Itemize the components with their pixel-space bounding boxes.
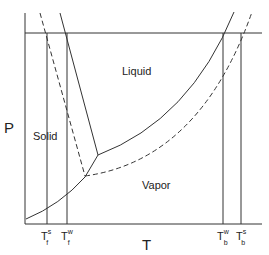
tick-tbw: Twb	[217, 229, 228, 244]
tick-tbs: Tsb	[236, 229, 245, 244]
vaporization-curve-dashed	[85, 12, 252, 176]
melting-curve-solid	[60, 13, 98, 155]
tick-tfs: Tsf	[41, 229, 48, 244]
region-vapor-label: Vapor	[142, 180, 171, 191]
phase-diagram-plot	[0, 0, 269, 255]
tick-tfw: Twf	[61, 229, 70, 244]
y-axis-label: P	[4, 120, 14, 135]
region-liquid-label: Liquid	[122, 66, 151, 77]
sublimation-curve-solid	[26, 155, 98, 219]
x-axis-label: T	[142, 237, 151, 252]
region-solid-label: Solid	[33, 131, 57, 142]
